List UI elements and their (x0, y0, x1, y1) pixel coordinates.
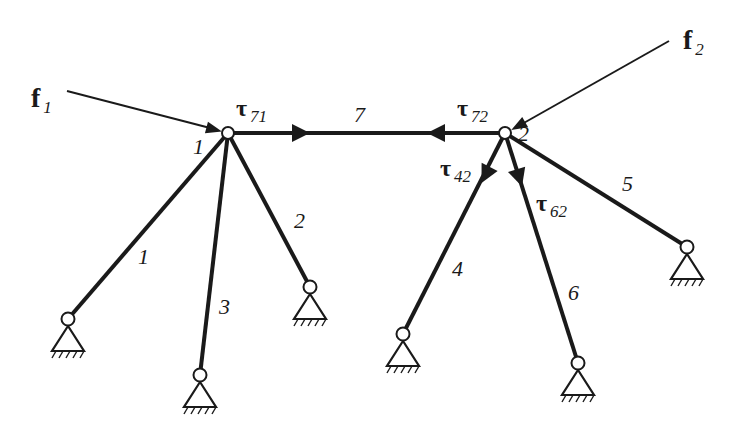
member-1 (68, 133, 228, 319)
support-6-icon (562, 357, 594, 403)
tau62-arrow-icon (508, 167, 531, 190)
label-tau71-symbol: τ (236, 95, 247, 121)
node-2-icon (499, 127, 511, 139)
support-1-icon (52, 313, 84, 359)
force-f1-arrow-icon (205, 122, 223, 138)
label-member-3: 3 (219, 296, 230, 318)
tau42-arrow-icon (473, 163, 497, 187)
label-tau62-sub: 62 (550, 202, 567, 221)
force-f1-line (67, 91, 214, 129)
truss-diagram (0, 0, 737, 432)
tau71-arrow-icon (292, 124, 310, 142)
support-4-icon (387, 328, 419, 374)
label-tau62-symbol: τ (536, 190, 547, 216)
node-1-icon (222, 127, 234, 139)
label-tau71-sub: 71 (250, 107, 267, 126)
label-member-6: 6 (568, 282, 579, 304)
label-tau72-symbol: τ (457, 95, 468, 121)
label-node-1: 1 (193, 136, 204, 158)
support-3-icon (184, 369, 216, 415)
member-6 (505, 133, 578, 363)
support-5-icon (671, 241, 703, 287)
label-member-7: 7 (354, 104, 365, 126)
label-tau71: τ71 (236, 96, 267, 125)
label-tau42: τ42 (440, 156, 471, 185)
tau72-arrow-icon (427, 124, 445, 142)
label-member-5: 5 (622, 173, 633, 195)
member-3 (200, 133, 228, 375)
label-f1-sub: 1 (43, 98, 52, 117)
support-2-icon (294, 281, 326, 327)
member-5 (505, 133, 687, 247)
label-tau62: τ62 (536, 191, 567, 220)
label-f2: f2 (683, 26, 704, 58)
label-f2-sub: 2 (695, 40, 704, 59)
force-f2-line (522, 41, 669, 124)
label-member-2: 2 (294, 210, 305, 232)
label-tau72-sub: 72 (471, 107, 488, 126)
label-tau42-sub: 42 (454, 167, 471, 186)
label-member-1: 1 (138, 246, 149, 268)
label-tau42-symbol: τ (440, 155, 451, 181)
label-f2-symbol: f (683, 24, 692, 55)
label-node-2: 2 (518, 123, 529, 145)
label-tau72: τ72 (457, 96, 488, 125)
label-f1-symbol: f (31, 82, 40, 113)
label-member-4: 4 (452, 258, 463, 280)
label-f1: f1 (31, 84, 52, 116)
